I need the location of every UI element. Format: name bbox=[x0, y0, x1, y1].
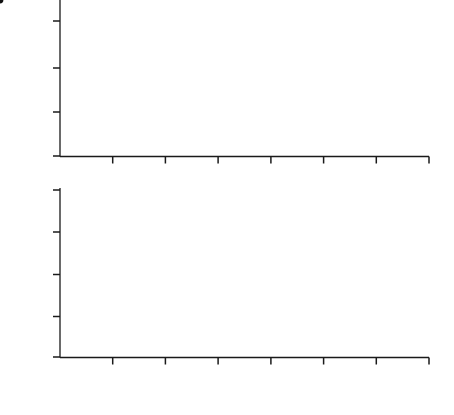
top-panel-y-ticks bbox=[53, 21, 60, 156]
figure-two-panel-cbo-projections bbox=[0, 0, 454, 415]
actual-1987-q3-marker bbox=[0, 0, 3, 3]
top-panel-x-ticks bbox=[113, 157, 429, 164]
bottom-panel-y-ticks bbox=[53, 190, 60, 357]
top-panel bbox=[53, 0, 429, 164]
chart-canvas bbox=[0, 0, 454, 415]
bottom-panel bbox=[0, 0, 429, 364]
bottom-panel-x-ticks bbox=[113, 358, 429, 365]
